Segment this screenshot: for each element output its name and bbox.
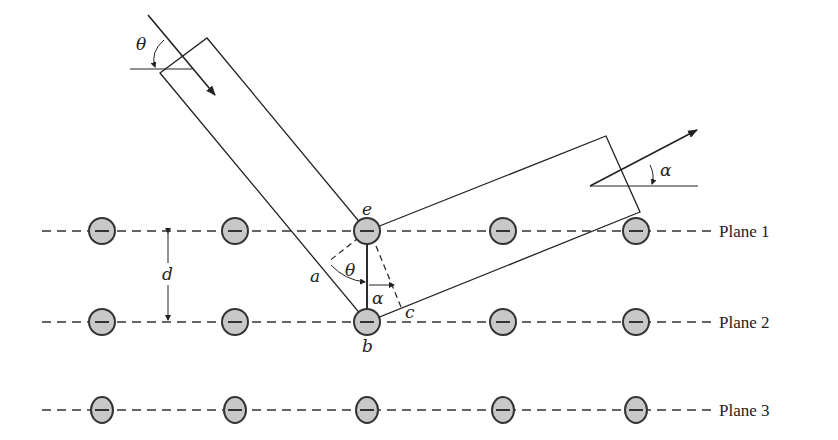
atom — [623, 309, 649, 335]
atom — [625, 397, 647, 423]
atom — [222, 309, 248, 335]
incident-beam — [160, 38, 367, 322]
point-a-label: a — [310, 266, 320, 286]
atom — [354, 218, 380, 244]
atom — [224, 397, 246, 423]
spacing-label: d — [162, 264, 173, 284]
bragg-diffraction-diagram: θ α θ α d e b a c Plane 1 Plane 2 Plane … — [0, 0, 838, 440]
alpha-label-inner: α — [372, 288, 384, 308]
atoms — [89, 218, 649, 423]
point-e-label: e — [362, 199, 372, 219]
atom — [354, 309, 380, 335]
atom — [623, 218, 649, 244]
theta-label-inner: θ — [345, 260, 355, 280]
atom — [356, 397, 378, 423]
point-c-label: c — [405, 302, 415, 322]
alpha-arc-outgoing — [650, 165, 653, 184]
atom — [89, 218, 115, 244]
theta-arc-incident — [154, 40, 164, 67]
atom — [91, 397, 113, 423]
plane-2-label: Plane 2 — [719, 313, 770, 332]
alpha-label-outgoing: α — [660, 160, 672, 180]
point-b-label: b — [362, 336, 373, 356]
atom — [492, 397, 514, 423]
diffracted-arrow — [590, 130, 697, 186]
atom — [222, 218, 248, 244]
atom — [490, 309, 516, 335]
atom — [89, 309, 115, 335]
theta-label-incident: θ — [136, 34, 146, 54]
atom — [490, 218, 516, 244]
plane-1-label: Plane 1 — [719, 222, 770, 241]
incident-arrow — [148, 15, 215, 95]
plane-3-label: Plane 3 — [719, 401, 770, 420]
